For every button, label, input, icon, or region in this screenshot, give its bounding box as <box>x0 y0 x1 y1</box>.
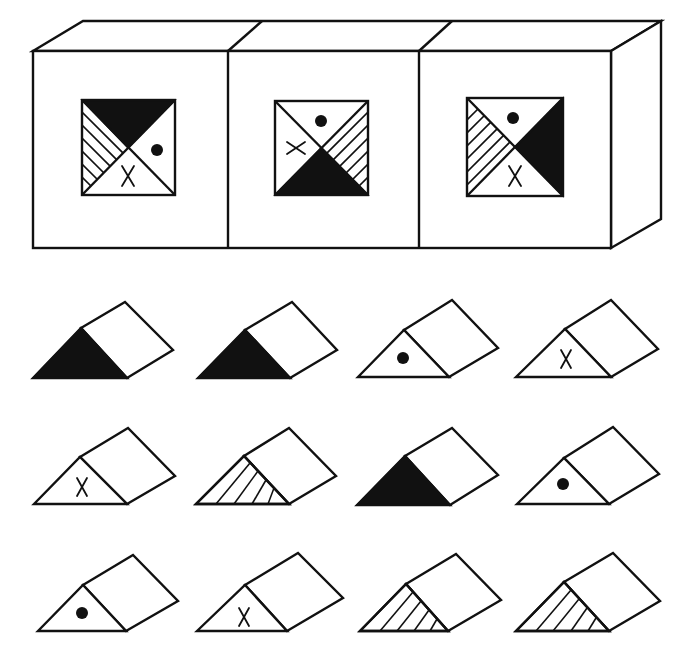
option-6[interactable] <box>196 428 336 504</box>
diagram-title: Spatial reasoning puzzle: which triangul… <box>0 0 1 1</box>
option-8[interactable] <box>517 427 659 504</box>
option-2[interactable] <box>198 302 337 378</box>
dot-mark <box>397 352 409 364</box>
puzzle-diagram: Spatial reasoning puzzle: which triangul… <box>0 0 696 666</box>
option-5[interactable] <box>34 428 175 504</box>
block-top-face <box>33 21 661 51</box>
option-1[interactable] <box>33 302 173 378</box>
option-12[interactable] <box>516 553 660 631</box>
option-11[interactable] <box>360 554 501 631</box>
dot-mark <box>151 144 163 156</box>
block <box>33 21 661 248</box>
option-10[interactable] <box>197 553 343 631</box>
option-9[interactable] <box>38 555 178 631</box>
dot-mark <box>315 115 327 127</box>
option-4[interactable] <box>516 300 658 377</box>
option-3[interactable] <box>358 300 498 377</box>
dot-mark <box>76 607 88 619</box>
dot-mark <box>507 112 519 124</box>
block-side-face <box>611 21 661 248</box>
option-7[interactable] <box>357 428 498 505</box>
dot-mark <box>557 478 569 490</box>
